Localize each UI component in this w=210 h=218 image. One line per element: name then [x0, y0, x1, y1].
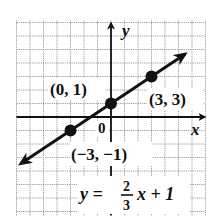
data-point: [65, 125, 77, 137]
point-label-neg3-neg1: (−3, −1): [71, 145, 127, 164]
x-axis-label: x: [190, 120, 200, 139]
point-label-0-1: (0, 1): [50, 80, 87, 99]
data-point: [105, 98, 117, 110]
equation-denominator: 3: [123, 198, 130, 213]
origin-label: 0: [98, 120, 106, 136]
equation-numerator: 2: [123, 179, 130, 194]
y-axis-label: y: [120, 21, 130, 40]
equation-lhs: y =: [78, 184, 103, 204]
point-label-3-3: (3, 3): [149, 90, 186, 109]
equation-rhs: x + 1: [136, 184, 174, 204]
data-point: [146, 71, 158, 83]
coordinate-plane: 0 y x (0, 1) (3, 3) (−3, −1) y = 2 3 x +…: [0, 0, 210, 218]
